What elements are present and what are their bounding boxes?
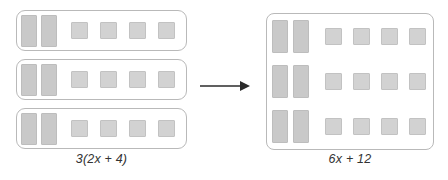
unit-tile xyxy=(409,73,426,90)
x-tile xyxy=(41,113,57,145)
unit-tile xyxy=(409,28,426,45)
x-tile xyxy=(41,15,57,47)
unit-tile xyxy=(129,120,146,137)
x-tile xyxy=(272,110,288,143)
x-tile xyxy=(293,110,309,143)
unit-tile xyxy=(100,120,117,137)
unit-tile xyxy=(71,120,88,137)
unit-tile xyxy=(325,118,342,135)
unit-tile xyxy=(381,28,398,45)
unit-tile xyxy=(158,22,175,39)
unit-tile xyxy=(325,28,342,45)
factor-group-row-2 xyxy=(16,59,187,100)
expanded-expression-box xyxy=(266,13,434,150)
product-row-1 xyxy=(267,17,433,58)
factor-group-row-1 xyxy=(16,10,187,51)
x-tile xyxy=(21,15,37,47)
unit-tile xyxy=(353,73,370,90)
expanded-expression-label: 6x + 12 xyxy=(266,152,434,166)
factored-expression-label: 3(2x + 4) xyxy=(16,152,187,166)
x-tile xyxy=(21,64,37,96)
unit-tile xyxy=(158,71,175,88)
unit-tile xyxy=(100,71,117,88)
unit-tile xyxy=(158,120,175,137)
unit-tile xyxy=(129,71,146,88)
factor-group-row-3 xyxy=(16,108,187,149)
unit-tile xyxy=(381,73,398,90)
unit-tile xyxy=(409,118,426,135)
x-tile xyxy=(293,20,309,53)
unit-tile xyxy=(71,71,88,88)
arrow-right-icon xyxy=(199,79,251,93)
unit-tile xyxy=(100,22,117,39)
x-tile xyxy=(272,65,288,98)
x-tile xyxy=(41,64,57,96)
unit-tile xyxy=(353,28,370,45)
x-tile xyxy=(293,65,309,98)
unit-tile xyxy=(353,118,370,135)
unit-tile xyxy=(325,73,342,90)
x-tile xyxy=(21,113,37,145)
x-tile xyxy=(272,20,288,53)
unit-tile xyxy=(381,118,398,135)
product-row-3 xyxy=(267,107,433,148)
product-row-2 xyxy=(267,62,433,103)
algebra-tile-diagram: 3(2x + 4) 6 xyxy=(0,0,448,180)
unit-tile xyxy=(129,22,146,39)
unit-tile xyxy=(71,22,88,39)
